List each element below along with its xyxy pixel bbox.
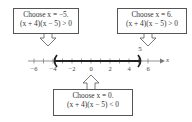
test-box-left-line2: (x + 4)(x − 5) > 0 (14, 19, 78, 28)
right-box-arrow-icon (140, 32, 156, 46)
test-box-right-line1: Choose x = 6. (118, 10, 186, 19)
axis-variable-label: x (166, 56, 169, 64)
test-box-left: Choose x = −5. (x + 4)(x − 5) > 0 (13, 8, 79, 34)
test-box-right-line2: (x + 4)(x − 5) > 0 (118, 19, 186, 28)
test-box-right: Choose x = 6. (x + 4)(x − 5) > 0 (117, 8, 187, 34)
axis-arrow-icon (160, 59, 165, 64)
test-box-left-line1: Choose x = −5. (14, 10, 78, 19)
tick-label: −6 (31, 65, 38, 72)
tick-label: 2 (108, 65, 111, 72)
tick-label: 0 (89, 65, 92, 72)
test-box-bottom: Choose x = 0. (x + 4)(x − 5) < 0 (53, 89, 133, 116)
tick-label: −4 (50, 65, 57, 72)
tick-label: 4 (127, 65, 130, 72)
endpoint-label: 5 (138, 45, 142, 53)
bottom-box-arrow-icon (83, 75, 99, 89)
tick-label: −2 (69, 65, 76, 72)
test-box-bottom-line1: Choose x = 0. (54, 91, 132, 100)
left-box-arrow-icon (40, 32, 56, 46)
test-box-bottom-line2: (x + 4)(x − 5) < 0 (54, 100, 132, 109)
tick-label: 6 (146, 65, 149, 72)
